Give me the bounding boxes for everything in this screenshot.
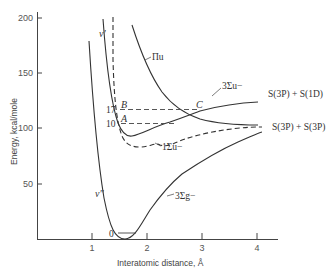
label-asymptote-1d: S(3P) + S(1D): [268, 89, 323, 100]
y-tick-label-100: 100: [18, 123, 33, 133]
label-v-prime: v': [99, 28, 106, 39]
potential-energy-chart: 200 150 100 50 1 2 3 4 Interatomic dista…: [0, 0, 335, 273]
label-point-c: C: [196, 99, 203, 110]
label-point-b: B: [121, 99, 127, 110]
label-level-17: 17: [106, 105, 116, 115]
sigma-u-upper-leader: [212, 88, 221, 96]
y-tick-label-200: 200: [18, 13, 33, 23]
sigma-g-leader: [167, 194, 174, 196]
pi-u-leader: [145, 57, 151, 60]
label-sigma-u-upper: 3Σu−: [222, 81, 242, 91]
label-level-10: 10: [106, 119, 116, 129]
label-v-double-prime: v'': [95, 188, 105, 199]
x-axis-title: Interatomic distance, Å: [117, 258, 204, 268]
y-tick-label-150: 150: [18, 68, 33, 78]
curve-ground-state: [89, 41, 262, 239]
y-axis-title: Energy, kcal/mole: [9, 98, 19, 165]
y-tick-label-50: 50: [23, 179, 33, 189]
label-pi-u: Πu: [152, 52, 164, 62]
label-sigma-u-singlet: 1Σu−: [162, 142, 182, 152]
x-tick-label-4: 4: [254, 243, 259, 253]
label-point-a: A: [120, 113, 128, 124]
label-sigma-g: 3Σg−: [175, 191, 195, 201]
curve-pi-u: [132, 25, 258, 125]
x-tick-label-3: 3: [199, 243, 204, 253]
label-asymptote-3p: S(3P) + S(3P): [272, 122, 325, 133]
x-tick-label-2: 2: [144, 243, 149, 253]
label-level-0: 0: [109, 229, 114, 239]
x-tick-label-1: 1: [89, 243, 94, 253]
